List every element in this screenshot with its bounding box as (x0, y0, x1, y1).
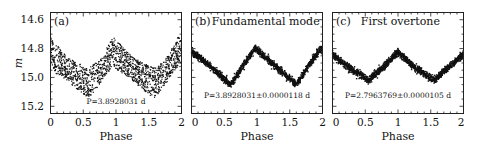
panel-label: (a) (54, 15, 69, 28)
x-tick-label: 1.5 (422, 116, 439, 128)
y-axis-title: m (12, 58, 25, 68)
x-axis: 0 0.5 1 1.5 2 Phase (192, 116, 326, 143)
x-tick-label: 1.5 (281, 116, 298, 128)
x-tick-label: 0.5 (216, 116, 233, 128)
x-tick-label: 0 (333, 116, 340, 128)
x-tick-label: 2 (458, 116, 465, 128)
x-axis-title: Phase (381, 130, 414, 143)
panel-title: First overtone (361, 15, 440, 28)
x-tick-label: 0.5 (357, 116, 374, 128)
x-axis-title: Phase (99, 130, 132, 143)
y-tick-label: 15.0 (21, 71, 44, 83)
panel-letter: (b) (195, 15, 211, 28)
panel-a: (a) P=3.8928031 d 0 0.5 1 1.5 2 Phase (47, 13, 185, 144)
panel-b-fundamental-mode: (b)Fundamental mode P=3.8928031±0.000011… (191, 13, 326, 144)
panel-label: (b)Fundamental mode (195, 15, 320, 28)
y-axis: 14.6 14.8 15.0 15.2 m (12, 13, 44, 112)
y-tick-label: 15.2 (21, 100, 44, 112)
x-tick-label: 0 (47, 116, 54, 128)
period-annotation: P=3.8928031±0.0000118 d (204, 91, 310, 100)
x-tick-label: 2 (319, 116, 326, 128)
x-tick-label: 2 (178, 116, 185, 128)
y-tick-label: 14.8 (21, 42, 44, 54)
x-tick-label: 1 (113, 116, 120, 128)
x-tick-label: 0 (192, 116, 199, 128)
x-tick-label: 1.5 (140, 116, 157, 128)
x-tick-label: 0.5 (75, 116, 92, 128)
x-tick-label: 1 (395, 116, 402, 128)
y-tick-label: 14.6 (21, 13, 45, 25)
scatter-points (191, 45, 323, 88)
period-annotation: P=3.8928031 d (86, 97, 145, 106)
period-annotation: P=2.7963769±0.0000105 d (345, 91, 451, 100)
panel-label: (c)First overtone (336, 15, 440, 28)
x-axis: 0 0.5 1 1.5 2 Phase (47, 116, 185, 143)
x-axis: 0 0.5 1 1.5 2 Phase (333, 116, 465, 143)
x-tick-label: 1 (254, 116, 261, 128)
x-axis-title: Phase (240, 130, 273, 143)
light-curve-figure: 14.6 14.8 15.0 15.2 m (a) P=3.8928031 d … (0, 0, 484, 146)
panel-letter: (c) (336, 15, 351, 28)
scatter-points (332, 48, 464, 85)
scatter-points (50, 37, 182, 98)
panel-title: Fundamental mode (212, 15, 320, 28)
panel-c-first-overtone: (c)First overtone P=2.7963769±0.0000105 … (332, 13, 464, 144)
